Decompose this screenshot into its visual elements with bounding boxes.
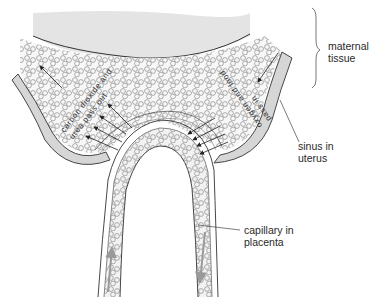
sinus-in-uterus-label: sinus in uterus — [298, 140, 334, 164]
capillary-in-placenta-label: capillary in placenta — [244, 224, 294, 248]
maternal-tissue-label: maternal tissue — [328, 40, 369, 64]
capillary-line2: placenta — [244, 236, 294, 248]
maternal-tissue-line1: maternal — [328, 40, 369, 52]
sinus-leader-line — [280, 100, 299, 142]
maternal-tissue-line2: tissue — [328, 52, 369, 64]
sinus-line2: uterus — [298, 152, 334, 164]
capillary-line1: capillary in — [244, 224, 294, 236]
placenta-exchange-diagram: maternal tissue sinus in uterus capillar… — [0, 0, 372, 297]
sinus-line1: sinus in — [298, 140, 334, 152]
maternal-tissue-brace — [312, 8, 320, 88]
